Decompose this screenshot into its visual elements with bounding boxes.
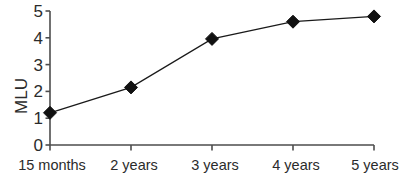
y-tick-label-2: 2	[34, 82, 43, 101]
data-point-marker-1	[125, 81, 138, 94]
y-tick-label-1: 1	[34, 109, 43, 128]
y-axis-label: MLU	[12, 78, 31, 114]
y-tick-label-3: 3	[34, 56, 43, 75]
x-tick-label-3-years: 3 years	[191, 157, 239, 173]
series-line-mlu	[50, 16, 374, 112]
data-point-marker-4	[368, 10, 381, 23]
chart-plot-area: MLU 5 4 3 2 1 0 15 months 2 yea	[0, 0, 405, 184]
y-tick-label-4: 4	[34, 29, 43, 48]
x-tick-label-5-years: 5 years	[351, 157, 399, 173]
x-tick-label-15-months: 15 months	[18, 157, 86, 173]
line-chart: MLU 5 4 3 2 1 0 15 months 2 yea	[0, 0, 405, 184]
y-tick-label-5: 5	[34, 2, 43, 21]
data-point-marker-0	[44, 106, 57, 119]
y-tick-label-0: 0	[34, 136, 43, 155]
data-point-marker-2	[206, 32, 219, 45]
x-tick-label-4-years: 4 years	[272, 157, 320, 173]
x-tick-label-2-years: 2 years	[110, 157, 158, 173]
data-point-marker-3	[287, 15, 300, 28]
